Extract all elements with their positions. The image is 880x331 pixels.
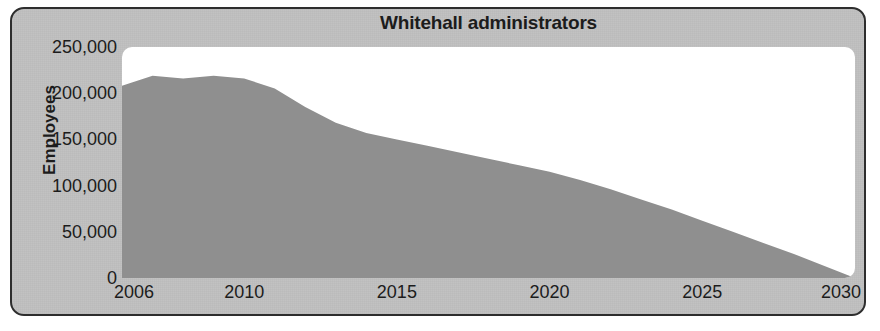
- chart-figure: Whitehall administrators Employees 050,0…: [0, 0, 880, 331]
- y-tick-label: 0: [7, 269, 117, 287]
- y-tick-label: 150,000: [7, 130, 117, 148]
- y-tick-label: 250,000: [7, 38, 117, 56]
- plot-area: [122, 47, 855, 278]
- y-tick-label: 200,000: [7, 84, 117, 102]
- x-tick-label: 2025: [682, 283, 722, 301]
- area-series-path: [122, 76, 855, 278]
- x-axis-ticks: 200620102015202020252030: [122, 283, 855, 313]
- x-tick-label: 2006: [114, 283, 154, 301]
- y-tick-label: 100,000: [7, 177, 117, 195]
- chart-title: Whitehall administrators: [122, 12, 855, 34]
- x-tick-label: 2030: [821, 283, 861, 301]
- y-tick-label: 50,000: [7, 223, 117, 241]
- x-tick-label: 2020: [530, 283, 570, 301]
- area-series-svg: [122, 47, 855, 278]
- x-tick-label: 2015: [377, 283, 417, 301]
- x-tick-label: 2010: [224, 283, 264, 301]
- y-axis-ticks: 050,000100,000150,000200,000250,000: [0, 0, 117, 331]
